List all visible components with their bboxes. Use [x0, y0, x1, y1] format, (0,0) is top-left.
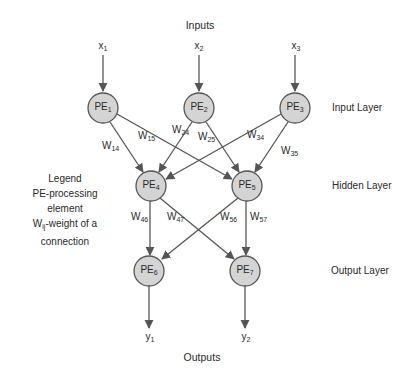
layer-label-output: Output Layer: [331, 265, 389, 276]
input-x2: x2: [195, 40, 204, 52]
legend-title: Legend: [20, 171, 110, 186]
weight-w25: W25: [198, 131, 215, 143]
input-x1: x1: [99, 40, 108, 52]
node-label-pe1: PE1: [94, 101, 111, 113]
legend: Legend PE-processing element Wij-weight …: [20, 171, 110, 249]
node-label-pe2: PE2: [190, 101, 207, 113]
node-label-pe4: PE4: [142, 179, 159, 191]
legend-pe-line: PE-processing: [20, 186, 110, 201]
node-label-pe5: PE5: [238, 179, 255, 191]
weight-w15: W15: [138, 130, 155, 142]
weight-w34: W34: [247, 129, 264, 141]
weight-w14: W14: [102, 140, 119, 152]
output-y2: y2: [242, 331, 251, 343]
weight-w56: W56: [220, 211, 237, 223]
edge-pe4-pe7: [160, 198, 234, 259]
legend-pe-line-2: element: [20, 201, 110, 216]
weight-w57: W57: [250, 211, 267, 223]
node-label-pe3: PE3: [286, 101, 303, 113]
output-y1: y1: [146, 331, 155, 343]
weight-w35: W35: [281, 145, 298, 157]
legend-weight-line: Wij-weight of a: [20, 216, 110, 234]
inputs-title: Inputs: [186, 19, 215, 31]
weight-w46: W46: [131, 211, 148, 223]
input-x3: x3: [292, 40, 301, 52]
edge-pe5-pe6: [162, 198, 238, 259]
layer-label-hidden: Hidden Layer: [332, 180, 391, 191]
weight-w47: W47: [167, 211, 184, 223]
weight-w24: W24: [172, 124, 189, 136]
node-label-pe6: PE6: [140, 264, 157, 276]
layer-label-input: Input Layer: [332, 102, 382, 113]
outputs-title: Outputs: [184, 351, 221, 363]
node-label-pe7: PE7: [236, 264, 253, 276]
legend-weight-line-2: connection: [20, 234, 110, 249]
